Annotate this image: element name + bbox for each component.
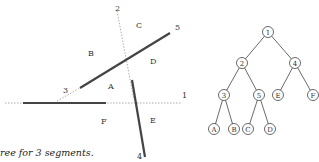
tree-node-4-label: 4 — [293, 60, 298, 68]
tree-node-1-label: 1 — [266, 29, 270, 37]
figure-caption: ree for 3 segments. — [0, 147, 94, 158]
bsp-tree-diagram: 1 2 4 3 5 E F A B C D — [0, 0, 319, 162]
tree-node-3-label: 3 — [222, 92, 226, 100]
tree-leaf-c-label: C — [245, 126, 250, 134]
tree-leaf-f-label: F — [311, 92, 316, 100]
tree-node-2-label: 2 — [240, 60, 244, 68]
tree-leaf-b-label: B — [231, 126, 236, 134]
tree-node-5-label: 5 — [257, 92, 261, 100]
tree-leaf-a-label: A — [210, 126, 217, 134]
tree-edges — [214, 32, 313, 129]
tree-leaf-d-label: D — [267, 126, 273, 134]
tree-leaf-e-label: E — [275, 92, 280, 100]
